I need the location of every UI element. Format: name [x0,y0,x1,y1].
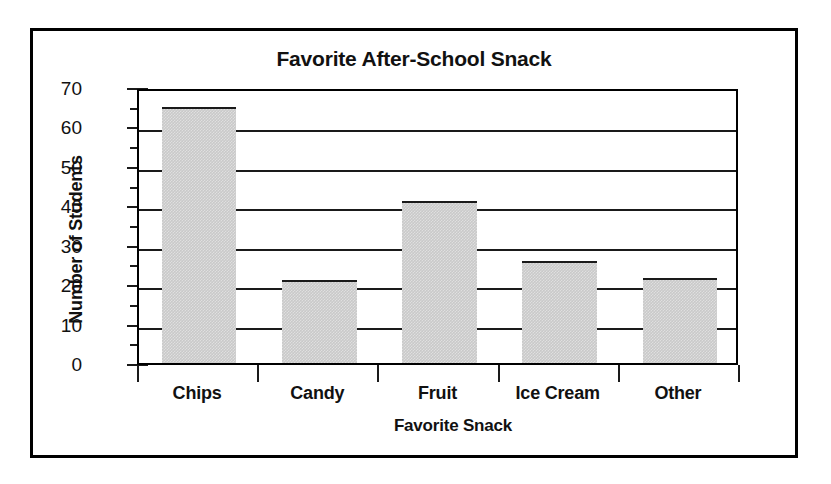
bar [522,261,597,364]
y-tick-label: 40 [22,196,82,218]
y-tick-label: 60 [22,117,82,139]
chart-outer-frame: Favorite After-School Snack Number of St… [30,28,798,458]
x-tick [377,365,379,382]
plot-area [137,89,738,365]
bar [402,201,477,363]
y-tick-label: 20 [22,275,82,297]
y-tick-label: 50 [22,157,82,179]
x-axis-category-label: Other [618,383,738,404]
x-axis-category-label: Ice Cream [498,383,618,404]
bar [162,107,237,363]
x-axis-category-label: Fruit [377,383,497,404]
y-tick-label: 10 [22,315,82,337]
y-tick-label: 0 [22,354,82,376]
x-axis-category-label: Chips [137,383,257,404]
chart-page: Favorite After-School Snack Number of St… [0,0,831,484]
x-tick [738,365,740,382]
x-axis-category-label: Candy [257,383,377,404]
x-axis-title: Favorite Snack [133,416,773,436]
x-tick [618,365,620,382]
x-tick [137,365,139,382]
bar [643,278,718,363]
x-tick [257,365,259,382]
y-tick-label: 70 [22,78,82,100]
bar [282,280,357,363]
y-tick-label: 30 [22,236,82,258]
x-tick [498,365,500,382]
chart-title: Favorite After-School Snack [33,47,795,71]
